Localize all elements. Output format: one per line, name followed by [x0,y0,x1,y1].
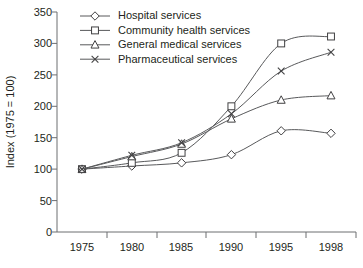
y-axis [52,12,57,232]
x-tick-label: 1990 [219,241,243,253]
data-point-marker [277,127,285,135]
y-tick-label: 350 [34,6,52,18]
legend-item-label: Pharmaceutical services [118,53,238,65]
x-axis [57,232,356,238]
diamond-marker-icon [91,12,99,20]
data-point-marker [227,150,235,158]
x-axis-tick-labels: 1975 1980 1985 1990 1995 1998 [70,241,343,253]
legend-item[interactable]: Community health services [80,24,251,36]
data-point-marker [128,159,135,166]
legend-item-label: General medical services [118,38,242,50]
legend-item[interactable]: General medical services [80,38,242,50]
x-tick-label: 1998 [319,241,343,253]
data-point-marker [328,49,335,56]
data-point-marker [278,40,285,47]
chart-legend: Hospital servicesCommunity health servic… [80,9,251,64]
x-tick-label: 1985 [169,241,193,253]
series-diamond [78,127,335,174]
chart-canvas: Index (1975 = 100) 350 300 250 200 150 1… [0,0,363,268]
data-point-marker [327,129,335,137]
y-tick-label: 300 [34,37,52,49]
series-cross-x [79,49,335,173]
data-point-marker [328,33,335,40]
y-axis-tick-labels: 350 300 250 200 150 100 50 0 [34,6,52,238]
legend-item[interactable]: Pharmaceutical services [80,53,238,65]
data-point-marker [327,91,335,98]
legend-item-label: Community health services [118,24,251,36]
y-tick-label: 100 [34,163,52,175]
square-marker-icon [92,27,99,34]
data-point-marker [278,68,285,75]
data-point-marker [228,103,235,110]
y-tick-label: 250 [34,69,52,81]
line-chart: Index (1975 = 100) 350 300 250 200 150 1… [0,0,363,268]
x-tick-label: 1975 [70,241,94,253]
y-axis-title: Index (1975 = 100) [4,76,16,169]
legend-item[interactable]: Hospital services [80,9,202,21]
data-point-marker [177,159,185,167]
x-tick-label: 1980 [120,241,144,253]
y-tick-label: 200 [34,100,52,112]
data-point-marker [178,149,185,156]
legend-item-label: Hospital services [118,9,202,21]
y-tick-label: 0 [46,226,52,238]
y-tick-label: 50 [40,195,52,207]
x-tick-label: 1995 [269,241,293,253]
y-tick-label: 150 [34,132,52,144]
